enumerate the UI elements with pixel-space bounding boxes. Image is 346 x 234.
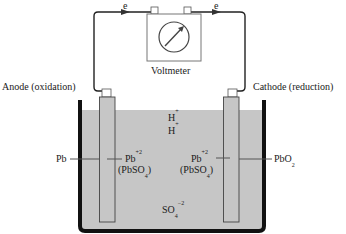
sulfate-ion: SO4−2	[162, 204, 184, 215]
h-plus-ion-2: H+	[168, 125, 179, 136]
cathode-product-salt: (PbSO4)	[180, 164, 213, 175]
electron-label-left: e−	[123, 0, 131, 11]
cathode-electrode	[224, 97, 240, 222]
anode-cap	[102, 89, 111, 97]
anode-product-ion: Pb+2	[125, 153, 142, 164]
cathode-cap	[228, 89, 237, 97]
voltmeter-terminal-right	[184, 7, 191, 14]
voltmeter-terminal-left	[151, 7, 158, 14]
anode-product-salt: (PbSO4)	[118, 164, 151, 175]
wire-left	[94, 12, 154, 91]
voltmeter-label: Voltmeter	[151, 65, 190, 76]
electron-label-right: e−	[214, 0, 222, 11]
anode-label: Anode (oxidation)	[2, 81, 76, 92]
anode-material-label: Pb	[56, 153, 67, 164]
cathode-material-label: PbO2	[274, 153, 295, 164]
cathode-product-ion: Pb+2	[191, 153, 208, 164]
cathode-label: Cathode (reduction)	[253, 81, 333, 92]
